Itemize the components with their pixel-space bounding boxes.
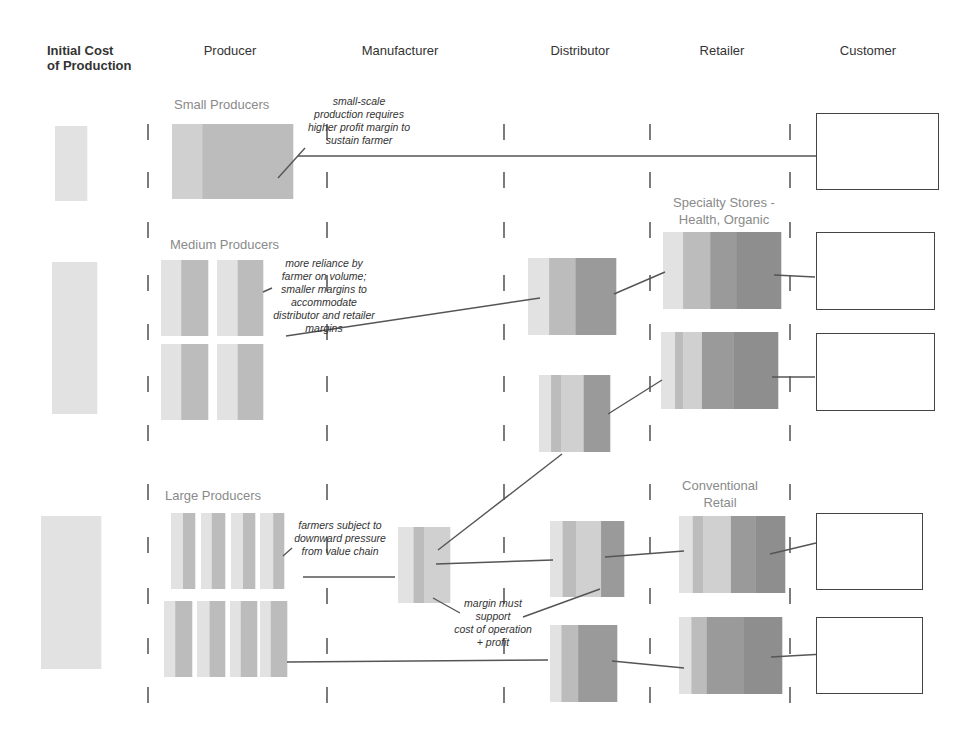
note-line: farmers subject to [284,519,396,532]
cost-band [550,625,562,702]
cost-band [679,516,693,593]
channel-label-conventional-line1: Conventional [670,477,770,494]
cost-block-dist-large-a [550,521,624,597]
cost-band [55,126,87,201]
cost-band [414,527,425,603]
cost-block-prod-lg-3 [231,513,255,589]
note-line: from value chain [284,545,396,558]
cost-block-prod-lg-6 [197,601,225,677]
cost-band [231,513,243,589]
cost-band [238,344,264,420]
cost-band [424,527,450,603]
cost-band [181,260,208,336]
note-line: production requires [292,108,426,121]
note-small-producers: small-scale production requires higher p… [292,95,426,147]
channel-label-conventional-retail: Conventional Retail [670,477,770,511]
cost-block-init-large [41,516,101,669]
cost-band [230,601,241,677]
customer-box-cust-small [816,113,939,190]
note-line: + profit [438,636,548,649]
cost-band [601,521,624,597]
cost-block-prod-lg-4 [260,513,284,589]
cost-band [41,516,101,669]
note-medium-producers: more reliance by farmer on volume; small… [264,257,384,335]
note-manufacturer-margin: margin must support cost of operation + … [438,597,548,649]
cost-band [217,344,238,420]
group-label-medium-producers: Medium Producers [170,237,279,252]
cost-band [661,332,675,409]
cost-block-prod-small [172,124,293,199]
value-chain-diagram: Initial Cost of Production Producer Manu… [0,0,976,737]
channel-label-specialty-line1: Specialty Stores - [664,194,784,211]
cost-band [217,260,238,336]
cost-block-prod-lg-2 [201,513,225,589]
cost-band [731,516,756,593]
cost-band [243,513,255,589]
cost-band [528,258,549,335]
cost-band [707,617,744,694]
group-label-small-producers: Small Producers [174,97,269,112]
note-line: margin must [438,597,548,610]
channel-label-specialty-stores: Specialty Stores - Health, Organic [664,194,784,228]
customer-box-cust-conv-b [816,617,923,694]
cost-band [550,521,563,597]
note-large-producers: farmers subject to downward pressure fro… [284,519,396,558]
connector-dist-large-b-to-conv-b [612,661,684,668]
cost-band [539,375,551,452]
cost-band [197,601,210,677]
cost-band [551,375,561,452]
cost-band [736,232,781,309]
cost-block-dist-medium-a [528,258,616,335]
note-line: sustain farmer [292,134,426,147]
cost-band [238,260,264,336]
cost-band [584,375,611,452]
note-line: farmer on volume; [264,270,384,283]
cost-block-init-small [55,126,87,201]
cost-band [175,601,192,677]
cost-block-init-medium [52,262,97,414]
cost-band [693,516,704,593]
note-line: smaller margins to [264,283,384,296]
cost-band [691,617,707,694]
cost-band [241,601,257,677]
cost-band [549,258,576,335]
cost-block-prod-med-3 [161,344,208,420]
cost-band [703,516,731,593]
cost-band [576,521,601,597]
cost-band [679,617,692,694]
cost-block-prod-med-4 [217,344,263,420]
cost-band [702,332,734,409]
cost-band [212,513,226,589]
cost-band [563,521,577,597]
cost-band [561,375,584,452]
connector-dist-b-to-manu [438,454,562,550]
cost-band [210,601,226,677]
channel-label-conventional-line2: Retail [670,494,770,511]
cost-band [710,232,736,309]
cost-band [273,513,284,589]
note-line: margins [264,322,384,335]
cost-block-ret-spec-b [661,332,778,409]
note-line: downward pressure [284,532,396,545]
cost-block-prod-lg-8 [260,601,287,677]
connector-large-to-dist-large-b [287,660,548,662]
cost-band [260,601,271,677]
cost-block-prod-lg-5 [164,601,192,677]
cost-block-ret-conv-b [679,617,782,694]
cost-band [52,262,97,414]
note-line: small-scale [292,95,426,108]
cost-band [398,527,414,603]
note-line: distributor and retailer [264,309,384,322]
cost-band [172,124,203,199]
cost-block-prod-lg-1 [171,513,195,589]
cost-block-manu-large [398,527,450,603]
cost-band [271,601,288,677]
note-line: support [438,610,548,623]
connector-dist-a-to-spec-a [614,272,665,294]
customer-box-cust-conv-a [816,513,923,590]
connector-manu-to-dist-large-a [436,560,553,564]
cost-band [164,601,176,677]
cost-band [183,513,195,589]
cost-block-dist-medium-b [539,375,610,452]
cost-band [171,513,183,589]
